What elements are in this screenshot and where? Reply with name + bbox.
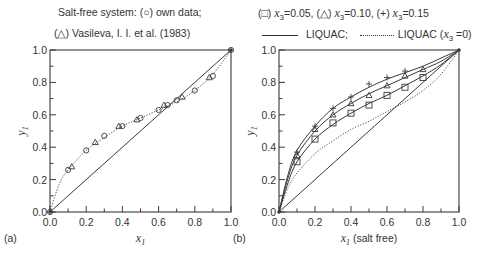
y-tick-label: 0.2 [261, 174, 276, 186]
chart-panel-a: 0.00.00.20.20.40.40.60.60.80.81.01.0x1y1… [4, 44, 238, 247]
x-axis-label: x1 (salt free) [340, 231, 398, 247]
x-tick-label: 0.2 [79, 216, 94, 228]
y-tick-label: 0.2 [32, 174, 47, 186]
x-tick-label: 0.4 [115, 216, 130, 228]
y-tick-label: 0.0 [32, 206, 47, 218]
x-tick-label: 1.0 [452, 216, 467, 228]
chart-canvas: 0.00.00.20.20.40.40.60.60.80.81.01.0x1y1… [0, 0, 484, 253]
origin-point [48, 210, 52, 214]
x-tick-label: 0.8 [416, 216, 431, 228]
series-line-diagonal-y-x [50, 50, 231, 212]
y-tick-label: 0.4 [261, 141, 276, 153]
x-tick-label: 0.2 [308, 216, 323, 228]
triangle-marker [206, 75, 212, 80]
x-axis-label: x1 [135, 231, 145, 247]
origin-point [277, 210, 281, 214]
y-tick-label: 0.4 [32, 141, 47, 153]
x-tick-label: 0.8 [187, 216, 202, 228]
y-tick-label: 0.6 [261, 109, 276, 121]
circle-marker [156, 107, 161, 112]
y-tick-label: 0.0 [261, 206, 276, 218]
series-line-diagonal-y-x [279, 50, 459, 212]
y-axis-label: y1 [243, 126, 259, 136]
y-axis-label: y1 [14, 126, 30, 136]
y-tick-label: 1.0 [32, 44, 47, 56]
x-tick-label: 0.4 [344, 216, 359, 228]
y-tick-label: 1.0 [261, 44, 276, 56]
x-tick-label: 1.0 [224, 216, 239, 228]
x-tick-label: 0.6 [151, 216, 166, 228]
circle-marker [102, 133, 107, 138]
circle-marker [66, 167, 71, 172]
y-tick-label: 0.8 [32, 76, 47, 88]
panel-label: (a) [4, 232, 17, 244]
y-tick-label: 0.6 [32, 109, 47, 121]
x-tick-label: 0.6 [380, 216, 395, 228]
end-point [229, 48, 233, 52]
end-point [457, 48, 461, 52]
chart-panel-b: 0.00.00.20.20.40.40.60.60.80.81.01.0x1 (… [233, 44, 466, 247]
y-tick-label: 0.8 [261, 76, 276, 88]
panel-label: (b) [233, 232, 246, 244]
